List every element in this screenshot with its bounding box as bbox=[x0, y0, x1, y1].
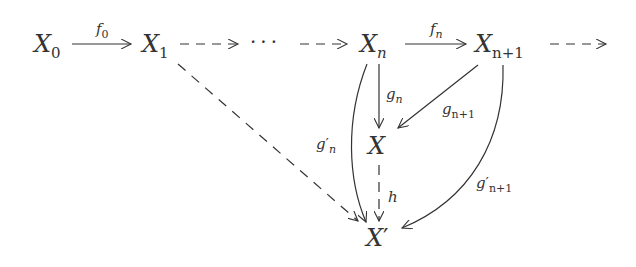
arrow-gn-prime bbox=[351, 64, 367, 222]
arrow-gn1-prime bbox=[402, 65, 503, 228]
label-gn1p-sub: n+1 bbox=[489, 182, 512, 195]
label-gnp-sub: n bbox=[329, 143, 336, 156]
label-gnp-base: g bbox=[316, 135, 326, 153]
node-x-base: X bbox=[368, 132, 385, 160]
label-f0-sub: 0 bbox=[102, 28, 109, 41]
node-xn1: Xn+1 bbox=[475, 32, 524, 61]
node-xn-sub: n bbox=[377, 44, 387, 62]
node-x1-base: X bbox=[142, 30, 159, 58]
label-gn1: gn+1 bbox=[442, 102, 475, 120]
label-fn-sub: n bbox=[436, 28, 443, 41]
label-gn-prime: g′n bbox=[316, 137, 336, 155]
node-x0-base: X bbox=[34, 30, 51, 58]
label-fn: fn bbox=[430, 22, 443, 40]
node-xn: Xn bbox=[360, 32, 387, 61]
node-xn1-base: X bbox=[475, 30, 492, 58]
node-x0-sub: 0 bbox=[51, 44, 61, 62]
label-gn1p-base: g bbox=[476, 174, 486, 192]
label-gn1-prime: g′n+1 bbox=[476, 176, 512, 194]
label-h: h bbox=[388, 190, 398, 205]
node-x1: X1 bbox=[142, 32, 169, 61]
diagram-arrows bbox=[0, 0, 636, 267]
label-gn1-sub: n+1 bbox=[452, 108, 475, 121]
node-x-prime: X′ bbox=[366, 226, 389, 250]
label-gn-base: g bbox=[386, 85, 396, 103]
node-x1-sub: 1 bbox=[159, 44, 169, 62]
node-x0: X0 bbox=[34, 32, 61, 61]
node-xp-base: X bbox=[366, 224, 383, 252]
node-ellipsis: ··· bbox=[250, 30, 281, 54]
node-xn1-sub: n+1 bbox=[492, 44, 524, 62]
node-xn-base: X bbox=[360, 30, 377, 58]
label-gn: gn bbox=[386, 87, 403, 105]
label-h-base: h bbox=[388, 188, 398, 206]
label-gn-sub: n bbox=[396, 93, 403, 106]
label-gn1-base: g bbox=[442, 100, 452, 118]
label-f0: f0 bbox=[96, 22, 109, 40]
node-x: X bbox=[368, 134, 385, 158]
node-xp-prime: ′ bbox=[383, 224, 388, 252]
